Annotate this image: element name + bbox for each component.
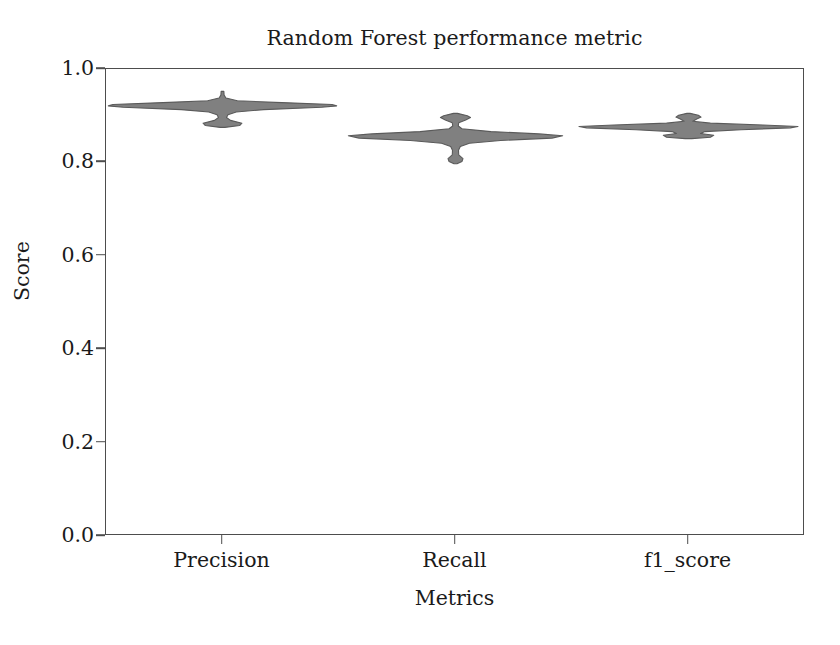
x-tick-label: f1_score (578, 548, 798, 572)
violin-plot-svg (106, 69, 805, 536)
y-tick-label: 0.4 (24, 336, 94, 360)
violin-precision (108, 91, 336, 127)
y-tick-mark (96, 534, 105, 536)
x-tick-mark (454, 535, 456, 544)
y-tick-mark (96, 161, 105, 163)
x-tick-mark (221, 535, 223, 544)
y-tick-mark (96, 254, 105, 256)
x-tick-label: Precision (112, 548, 332, 572)
x-tick-label: Recall (345, 548, 565, 572)
y-tick-mark (96, 347, 105, 349)
violin-f1_score (579, 113, 798, 138)
y-tick-mark (96, 67, 105, 69)
plot-area (105, 68, 804, 535)
chart-title: Random Forest performance metric (105, 26, 804, 50)
y-tick-label: 0.0 (24, 523, 94, 547)
y-tick-mark (96, 441, 105, 443)
x-tick-mark (687, 535, 689, 544)
violin-recall (348, 113, 562, 163)
x-axis-label: Metrics (105, 586, 804, 610)
y-tick-label: 0.8 (24, 149, 94, 173)
chart-figure: Random Forest performance metric Score 0… (0, 0, 840, 645)
y-tick-label: 0.6 (24, 243, 94, 267)
y-tick-label: 1.0 (24, 56, 94, 80)
y-tick-label: 0.2 (24, 430, 94, 454)
